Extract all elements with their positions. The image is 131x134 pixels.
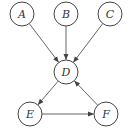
node-f: F [94,102,118,126]
arrow-line [29,24,58,62]
edge-d-to-e [38,81,58,104]
node-label: C [106,8,115,21]
arrow-line [75,81,98,105]
node-d: D [54,60,78,84]
node-c: C [98,2,122,26]
arrow-line [38,81,58,104]
node-b: B [54,2,78,26]
node-label: F [101,108,110,121]
edge-f-to-d [75,81,98,105]
node-e: E [18,102,42,126]
node-a: A [10,2,34,26]
node-label: A [17,8,26,21]
node-label: B [61,8,70,21]
edge-c-to-d [74,24,103,62]
edge-a-to-d [29,24,58,62]
arrow-line [74,24,103,62]
node-label: D [61,66,71,79]
graph-canvas: ABCDEF [0,0,131,134]
node-label: E [25,108,34,121]
